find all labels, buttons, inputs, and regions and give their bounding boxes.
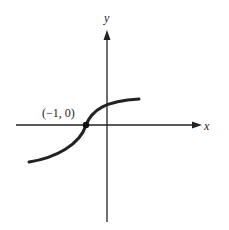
y-axis-arrow-icon [104,30,111,40]
x-axis-label: x [203,119,210,133]
graph-diagram: x y (−1, 0) [0,0,229,230]
point-label: (−1, 0) [42,106,75,120]
point-marker [83,122,89,128]
x-axis-arrow-icon [192,122,202,129]
y-axis-label: y [103,11,110,25]
